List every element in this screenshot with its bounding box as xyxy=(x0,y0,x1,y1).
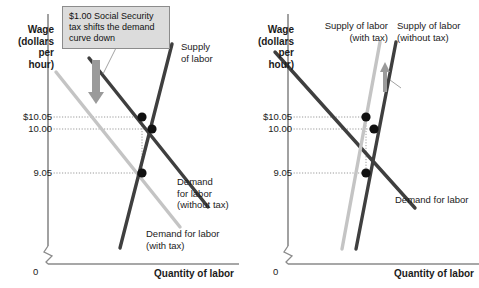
supply-without-tax-label: Supply of labor (without tax) xyxy=(397,20,460,43)
tax-incidence-figure: Wage (dollars per hour) $10.05 10.00 9.0… xyxy=(0,0,479,288)
supply-curve xyxy=(120,44,172,248)
y-tick-label-905: 9.05 xyxy=(244,168,292,178)
y-tick-label-1000: 10.00 xyxy=(244,124,292,134)
x-axis-title: Quantity of labor xyxy=(119,268,234,279)
callout-demand-shift: $1.00 Social Security tax shifts the dem… xyxy=(62,6,170,49)
x-axis-title: Quantity of labor xyxy=(359,268,474,279)
y-axis-title: Wage (dollars per hour) xyxy=(242,24,294,70)
y-axis-title: Wage (dollars per hour) xyxy=(2,24,54,70)
demand-with-tax-label: Demand for labor (with tax) xyxy=(146,228,219,251)
equilibrium-dot-1005 xyxy=(137,112,146,121)
demand-curve xyxy=(275,52,415,208)
supply-with-tax-label: Supply of labor (with tax) xyxy=(310,20,388,43)
panel-supply-shift: Wage (dollars per hour) $10.05 10.00 9.0… xyxy=(240,0,479,288)
y-tick-label-1005: $10.05 xyxy=(244,112,292,122)
y-tick-label-905: 9.05 xyxy=(4,168,52,178)
callout-leader-line xyxy=(390,80,401,88)
equilibrium-dot-905 xyxy=(361,168,370,177)
y-tick-label-1000: 10.00 xyxy=(4,124,52,134)
panel-demand-shift: Wage (dollars per hour) $10.05 10.00 9.0… xyxy=(0,0,239,288)
axis-break-mark xyxy=(44,246,52,264)
equilibrium-dot-1005 xyxy=(361,112,370,121)
y-tick-label-1005: $10.05 xyxy=(4,112,52,122)
demand-curve-label: Demand for labor xyxy=(395,194,468,206)
shift-arrow-down-icon xyxy=(88,60,104,104)
equilibrium-dot-905 xyxy=(137,168,146,177)
equilibrium-dot-1000 xyxy=(369,124,378,133)
origin-label: 0 xyxy=(33,266,38,277)
axis-break-mark xyxy=(284,246,292,264)
origin-label: 0 xyxy=(273,266,278,277)
demand-without-tax-label: Demand for labor (without tax) xyxy=(177,176,229,211)
equilibrium-dot-1000 xyxy=(147,124,156,133)
supply-curve-label: Supply of labor xyxy=(181,41,213,64)
